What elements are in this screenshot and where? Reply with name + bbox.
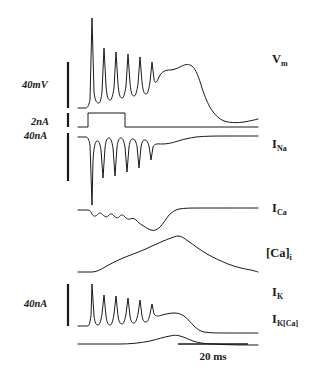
ica-label-subscript: Ca	[277, 208, 287, 217]
istim-scale-label: 2nA	[30, 116, 49, 127]
vm-scale-label: 40mV	[21, 79, 49, 90]
time-scale-bar-label: 20 ms	[199, 350, 227, 362]
vm-label-subscript: m	[281, 59, 288, 68]
cai-label-base: [Ca]	[266, 246, 290, 260]
ik-label-subscript: K	[277, 292, 284, 301]
ina-scale-label: 40nA	[23, 130, 47, 141]
ephys-figure: 40mV2nA40nA40nA 20 ms VmINaICa[Ca]iIKIK[…	[0, 0, 312, 373]
cai-label: [Ca]i	[266, 246, 293, 262]
vm-label-base: V	[272, 52, 281, 66]
ina-label-subscript: Na	[277, 144, 287, 153]
ik-scale-label: 40nA	[23, 298, 47, 309]
figure-background	[0, 0, 312, 373]
ikca-label-subscript: K[Ca]	[277, 319, 299, 328]
